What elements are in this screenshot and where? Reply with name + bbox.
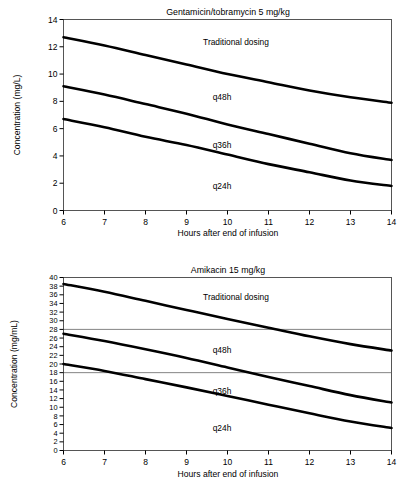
bottom-x-axis-title: Hours after end of infusion [178,469,279,479]
top-label-q48h: q48h [213,92,232,102]
top-label-traditional-dosing: Traditional dosing [203,37,269,47]
x-tick-label: 14 [387,217,397,227]
bottom-label-traditional-dosing: Traditional dosing [203,292,269,302]
x-tick-label: 13 [346,457,356,467]
bottom-chart-title: Amikacin 15 mg/kg [191,265,265,275]
top-x-axis-title: Hours after end of infusion [178,228,279,238]
y-tick-label: 18 [49,368,57,377]
bottom-y-axis: 0246810121416182022242628303234363840 [49,273,63,455]
y-tick-label: 38 [49,282,57,291]
x-tick-label: 11 [264,217,273,227]
y-tick-label: 4 [53,429,57,438]
x-tick-label: 9 [184,457,189,467]
gentamicin-tobramycin-chart: Gentamicin/tobramycin 5 mg/kg 0246810121… [0,0,409,240]
y-tick-label: 4 [53,151,58,161]
x-tick-label: 12 [305,457,315,467]
y-tick-label: 2 [53,437,57,446]
y-tick-label: 36 [49,290,57,299]
x-tick-label: 10 [223,217,233,227]
x-tick-label: 8 [143,457,148,467]
bottom-curves [64,284,392,428]
bottom-y-axis-title: Concentration (mg/mL) [9,320,19,408]
bottom-x-axis: 67891011121314 [61,451,396,467]
y-tick-label: 6 [53,420,57,429]
x-tick-label: 7 [102,217,107,227]
y-tick-label: 32 [49,308,57,317]
y-tick-label: 10 [48,69,58,79]
y-tick-label: 8 [53,96,58,106]
x-tick-label: 13 [346,217,356,227]
bottom-chart-svg: Amikacin 15 mg/kg 0246810121416182022242… [0,240,409,481]
y-tick-label: 8 [53,412,57,421]
top-curves [64,37,392,186]
top-x-axis: 67891011121314 [61,211,396,227]
y-tick-label: 12 [49,394,57,403]
y-tick-label: 2 [53,178,58,188]
x-tick-label: 9 [184,217,189,227]
y-tick-label: 12 [48,42,58,52]
x-tick-label: 6 [61,217,66,227]
x-tick-label: 11 [264,457,273,467]
top-y-axis-title: Concentration (mg/L) [12,75,22,156]
x-tick-label: 6 [61,457,66,467]
x-tick-label: 7 [102,457,107,467]
top-y-axis: 02468101214 [48,15,63,216]
y-tick-label: 20 [49,360,57,369]
top-chart-title: Gentamicin/tobramycin 5 mg/kg [166,7,290,17]
y-tick-label: 14 [48,15,58,25]
y-tick-label: 16 [49,377,57,386]
x-tick-label: 10 [223,457,233,467]
bottom-label-q24h: q24h [213,423,232,433]
y-tick-label: 6 [53,124,58,134]
x-tick-label: 14 [387,457,397,467]
series-curve-q36h [64,364,392,428]
y-tick-label: 24 [49,342,57,351]
bottom-label-q48h: q48h [213,345,232,355]
y-tick-label: 30 [49,316,57,325]
x-tick-label: 8 [143,217,148,227]
y-tick-label: 26 [49,334,57,343]
y-tick-label: 40 [49,273,57,282]
bottom-label-q36h: q36h [213,386,232,396]
y-tick-label: 0 [53,206,58,216]
y-tick-label: 14 [49,386,57,395]
top-chart-svg: Gentamicin/tobramycin 5 mg/kg 0246810121… [0,0,409,240]
y-tick-label: 10 [49,403,57,412]
top-label-q24h: q24h [213,181,232,191]
y-tick-label: 22 [49,351,57,360]
y-tick-label: 0 [53,446,57,455]
top-label-q36h: q36h [213,140,232,150]
amikacin-chart: Amikacin 15 mg/kg 0246810121416182022242… [0,240,409,481]
y-tick-label: 34 [49,299,57,308]
x-tick-label: 12 [305,217,315,227]
y-tick-label: 28 [49,325,57,334]
